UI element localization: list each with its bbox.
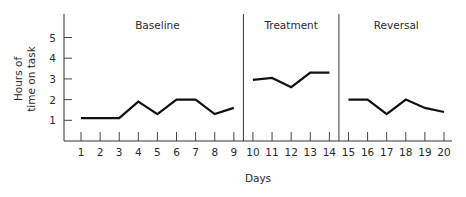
x-tick-label: 10 [246,146,259,158]
phase-label-treatment: Treatment [263,19,317,31]
y-tick-label: 1 [49,114,56,126]
x-tick-label: 7 [192,146,199,158]
phase-dividers [243,14,339,141]
x-tick-label: 1 [78,146,85,158]
x-tick-label: 5 [154,146,161,158]
x-tick-label: 12 [284,146,297,158]
x-tick-label: 3 [116,146,123,158]
y-axis-label-line2: time on task [25,45,37,111]
y-tick-label: 4 [49,52,56,64]
phase-label-reversal: Reversal [374,19,419,31]
x-axis-label: Days [245,172,271,184]
x-tick-label: 16 [361,146,375,158]
phase-line-treatment [253,73,330,88]
y-tick-label: 3 [49,73,56,85]
y-axis-label-line1: Hours of [12,57,24,102]
single-subject-abab-line-chart: 12345 1234567891011121314151617181920 Ba… [0,0,466,197]
phase-line-reversal [349,100,445,115]
x-tick-label: 4 [135,146,142,158]
x-tick-label: 2 [97,146,104,158]
y-ticks: 12345 [49,32,72,127]
x-tick-label: 20 [437,146,450,158]
phase-label-baseline: Baseline [135,19,180,31]
x-tick-label: 18 [399,146,412,158]
data-lines [81,73,444,119]
x-tick-label: 13 [304,146,317,158]
x-tick-label: 19 [418,146,431,158]
x-tick-label: 15 [342,146,355,158]
phase-labels: BaselineTreatmentReversal [135,19,419,31]
x-ticks: 1234567891011121314151617181920 [78,132,451,158]
x-tick-label: 6 [173,146,180,158]
x-tick-label: 8 [211,146,218,158]
y-tick-label: 5 [49,32,56,44]
x-tick-label: 9 [230,146,237,158]
x-tick-label: 17 [380,146,393,158]
y-tick-label: 2 [49,94,56,106]
phase-line-baseline [81,100,234,119]
x-tick-label: 14 [323,146,337,158]
x-tick-label: 11 [265,146,278,158]
